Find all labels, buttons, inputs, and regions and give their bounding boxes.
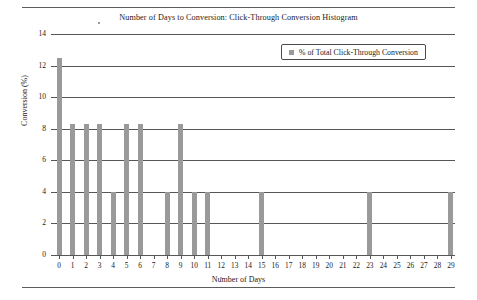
gridline <box>55 66 455 67</box>
bar[interactable] <box>448 192 453 255</box>
x-axis-tick-mark <box>370 255 371 259</box>
bar[interactable] <box>259 192 264 255</box>
x-axis-tick-mark <box>86 255 87 259</box>
page-speck-artifact-2 <box>220 277 222 279</box>
x-axis-tick-mark <box>397 255 398 259</box>
x-axis-tick-mark <box>356 255 357 259</box>
x-axis-tick-mark <box>343 255 344 259</box>
x-axis-tick-mark <box>127 255 128 259</box>
x-axis-tick-mark <box>329 255 330 259</box>
bar[interactable] <box>367 192 372 255</box>
page-speck-artifact <box>98 22 100 24</box>
x-axis-tick-mark <box>424 255 425 259</box>
y-axis-tick-label: 12 <box>20 61 46 70</box>
y-axis-tick-label: 10 <box>20 92 46 101</box>
bar[interactable] <box>138 124 143 255</box>
x-axis-tick-mark <box>383 255 384 259</box>
chart-title: Number of Days to Conversion: Click-Thro… <box>0 13 477 22</box>
plot-area <box>55 34 455 255</box>
legend-swatch-icon <box>289 50 294 55</box>
x-axis-tick-mark <box>437 255 438 259</box>
document-rule-bottom <box>22 287 455 288</box>
gridline <box>55 129 455 130</box>
y-axis-tick-label: 0 <box>20 250 46 259</box>
bar[interactable] <box>205 192 210 255</box>
x-axis-tick-mark <box>113 255 114 259</box>
x-axis-tick-mark <box>248 255 249 259</box>
bar[interactable] <box>57 58 62 255</box>
x-axis-tick-mark <box>221 255 222 259</box>
y-axis-tick-label: 2 <box>20 218 46 227</box>
bar[interactable] <box>84 124 89 255</box>
x-axis-line <box>55 255 455 256</box>
x-axis-tick-mark <box>275 255 276 259</box>
x-axis-tick-label: 29 <box>443 261 459 270</box>
x-axis-tick-mark <box>100 255 101 259</box>
x-axis-tick-mark <box>235 255 236 259</box>
x-axis-tick-mark <box>289 255 290 259</box>
document-rule-top <box>22 7 455 8</box>
x-axis-tick-mark <box>181 255 182 259</box>
y-axis-tick-label: 6 <box>20 155 46 164</box>
bar[interactable] <box>70 124 75 255</box>
x-axis-tick-mark <box>73 255 74 259</box>
x-axis-tick-mark <box>451 255 452 259</box>
bar[interactable] <box>111 192 116 255</box>
histogram-figure: Number of Days to Conversion: Click-Thro… <box>0 0 477 300</box>
x-axis-title: Number of Days <box>0 275 477 284</box>
x-axis-tick-mark <box>194 255 195 259</box>
x-axis-tick-mark <box>208 255 209 259</box>
x-axis-tick-mark <box>140 255 141 259</box>
bar[interactable] <box>124 124 129 255</box>
bar[interactable] <box>178 124 183 255</box>
bar[interactable] <box>165 192 170 255</box>
x-axis-tick-mark <box>316 255 317 259</box>
y-axis-tick-label: 14 <box>20 29 46 38</box>
bar[interactable] <box>192 192 197 255</box>
chart-legend[interactable]: % of Total Click-Through Conversion <box>281 44 426 60</box>
y-axis-tick-label: 4 <box>20 187 46 196</box>
x-axis-tick-mark <box>167 255 168 259</box>
legend-label: % of Total Click-Through Conversion <box>299 48 418 57</box>
x-axis-tick-mark <box>154 255 155 259</box>
x-axis-tick-mark <box>302 255 303 259</box>
x-axis-tick-mark <box>262 255 263 259</box>
y-axis-tick-label: 8 <box>20 124 46 133</box>
gridline <box>55 34 455 35</box>
x-axis-tick-mark <box>410 255 411 259</box>
bar[interactable] <box>97 124 102 255</box>
gridline <box>55 97 455 98</box>
gridline <box>55 160 455 161</box>
x-axis-tick-mark <box>59 255 60 259</box>
